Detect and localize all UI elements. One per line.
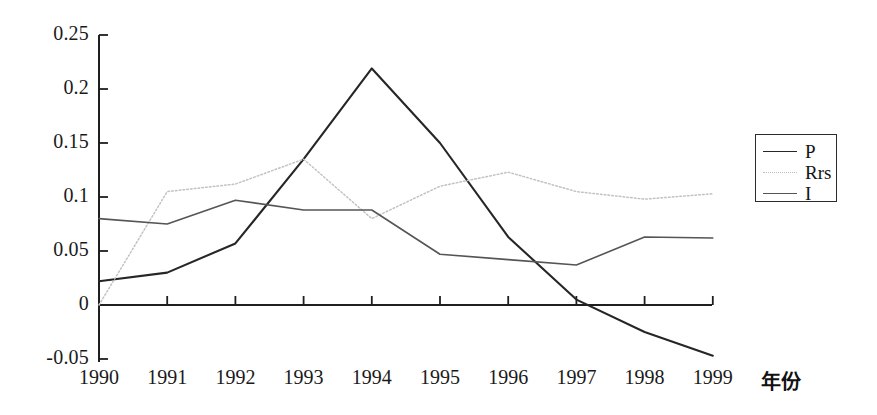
y-axis-tick-label: 0.05 <box>53 238 89 261</box>
x-axis-tick-label: 1993 <box>270 366 338 389</box>
x-axis-tick-label: 1999 <box>679 366 747 389</box>
x-axis-tick-label: 1990 <box>65 366 133 389</box>
solid-mid-line-icon <box>763 187 797 199</box>
legend-item-label: Rrs <box>805 163 831 182</box>
x-axis-tick-label: 1995 <box>406 366 474 389</box>
dotted-light-line-icon <box>763 166 797 178</box>
series-line-i <box>99 200 713 265</box>
y-axis-tick-label: 0.15 <box>53 130 89 153</box>
x-axis-title: 年份 <box>761 366 801 395</box>
x-axis-tick-label: 1994 <box>338 366 406 389</box>
series-line-p <box>99 68 713 355</box>
series-layer <box>99 68 713 355</box>
chart-legend: PRrsI <box>755 134 837 202</box>
solid-dark-line-icon <box>763 145 797 157</box>
x-axis-tick-label: 1997 <box>542 366 610 389</box>
x-axis-tick-label: 1996 <box>474 366 542 389</box>
x-axis-tick-label: 1998 <box>611 366 679 389</box>
y-axis-tick-label: 0.2 <box>63 76 89 99</box>
line-chart: 0.250.20.150.10.050-0.05 199019911992199… <box>0 0 877 415</box>
y-axis-tick-label: 0.25 <box>53 22 89 45</box>
plot-canvas <box>0 0 877 415</box>
legend-item-label: I <box>805 184 811 203</box>
axis-layer <box>99 35 713 362</box>
x-axis-tick-label: 1992 <box>201 366 269 389</box>
legend-item-p: P <box>763 140 816 162</box>
legend-item-label: P <box>805 142 816 161</box>
legend-item-rrs: Rrs <box>763 161 831 183</box>
legend-item-i: I <box>763 182 811 204</box>
y-axis-tick-label: 0 <box>79 292 89 315</box>
x-axis-tick-label: 1991 <box>133 366 201 389</box>
y-axis-tick-label: 0.1 <box>63 184 89 207</box>
